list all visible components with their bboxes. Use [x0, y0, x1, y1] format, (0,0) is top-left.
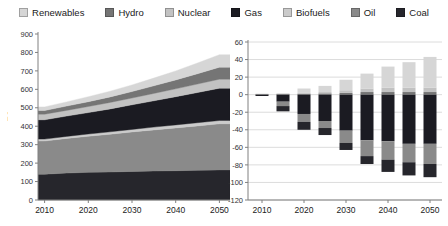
tick-label: -40	[232, 125, 243, 134]
bar-segment-coal	[298, 122, 311, 130]
legend-item-gas: Gas	[231, 7, 261, 18]
bar-segment-nuclear	[424, 88, 437, 92]
legend-item-renewables: Renewables	[19, 7, 84, 18]
gas-swatch-icon	[231, 8, 240, 17]
bar-segment-gas	[319, 95, 332, 121]
bar-segment-hydro	[382, 92, 395, 95]
bar-segment-gas	[277, 95, 290, 102]
legend-label: Biofuels	[296, 7, 330, 18]
tick-label: 2020	[295, 205, 314, 215]
tick-label: -100	[228, 178, 243, 187]
tick-label: 0	[29, 196, 33, 205]
tick-label: 40	[235, 55, 243, 64]
tick-label: 500	[20, 103, 33, 112]
biofuels-swatch-icon	[283, 8, 292, 17]
legend-label: Renewables	[32, 7, 84, 18]
legend-label: Nuclear	[178, 7, 211, 18]
tick-label: 2040	[379, 205, 398, 215]
tick-label: 600	[20, 85, 33, 94]
nuclear-swatch-icon	[165, 8, 174, 17]
bar-segment-hydro	[361, 92, 374, 95]
bar-segment-coal	[403, 162, 416, 175]
bar-segment-hydro	[340, 93, 353, 95]
bar-segment-nuclear	[361, 89, 374, 93]
bar-segment-oil	[361, 140, 374, 156]
bar-segment-coal	[424, 164, 437, 177]
tick-label: -60	[232, 143, 243, 152]
tick-label: 100	[20, 177, 33, 186]
oil-swatch-icon	[351, 8, 360, 17]
bar-segment-hydro	[424, 92, 437, 95]
bar-segment-nuclear	[382, 88, 395, 92]
tick-label: 60	[235, 38, 243, 47]
tick-label: 2040	[166, 205, 185, 215]
area-series-coal	[30, 170, 230, 200]
tick-label: 900	[20, 30, 33, 39]
bar-segment-renewables	[361, 74, 374, 89]
bar-segment-nuclear	[403, 88, 416, 92]
bar-segment-gas	[403, 95, 416, 144]
bar-segment-hydro	[319, 93, 332, 94]
bar-segment-nuclear	[298, 93, 311, 94]
renewables-swatch-icon	[19, 8, 28, 17]
tick-label: 400	[20, 122, 33, 131]
bar-segment-gas	[361, 95, 374, 141]
bar-segment-hydro	[298, 94, 311, 95]
bar-chart-change-by-fuel: 6040200-20-40-60-80-100-1202010202020302…	[228, 28, 448, 226]
bar-segment-oil	[424, 144, 437, 164]
bar-segment-oil	[319, 121, 332, 128]
bar-segment-nuclear	[340, 90, 353, 93]
legend-label: Coal	[409, 7, 429, 18]
legend-item-coal: Coal	[396, 7, 429, 18]
legend-label: Gas	[244, 7, 261, 18]
legend-item-hydro: Hydro	[105, 7, 143, 18]
tick-label: -80	[232, 161, 243, 170]
bar-segment-coal	[277, 106, 290, 111]
tick-label: 2050	[210, 205, 229, 215]
legend-label: Oil	[364, 7, 376, 18]
bar-segment-renewables	[424, 57, 437, 88]
tick-label: 0	[239, 90, 243, 99]
bar-segment-gas	[256, 95, 269, 96]
bar-segment-gas	[424, 95, 437, 144]
bar-segment-renewables	[319, 86, 332, 92]
bar-segment-gas	[340, 95, 353, 131]
bar-segment-renewables	[298, 89, 311, 93]
tick-label: 2010	[253, 205, 272, 215]
bar-segment-renewables	[277, 93, 290, 94]
legend-item-biofuels: Biofuels	[283, 7, 330, 18]
legend-label: Hydro	[118, 7, 143, 18]
tick-label: -120	[228, 196, 243, 205]
tick-label: 800	[20, 48, 33, 57]
bar-segment-oil	[340, 131, 353, 143]
tick-label: 300	[20, 140, 33, 149]
hydro-swatch-icon	[105, 8, 114, 17]
bar-segment-renewables	[382, 67, 395, 88]
legend-item-nuclear: Nuclear	[165, 7, 211, 18]
tick-label: 700	[20, 67, 33, 76]
tick-label: 2020	[79, 205, 98, 215]
bar-segment-gas	[382, 95, 395, 142]
bar-segment-nuclear	[256, 94, 269, 95]
area-chart-primary-energy: 0100200300400500600700800900201020202030…	[8, 28, 230, 226]
bar-segment-hydro	[403, 92, 416, 95]
energy-charts-figure: RenewablesHydroNuclearGasBiofuelsOilCoal…	[0, 0, 448, 226]
legend: RenewablesHydroNuclearGasBiofuelsOilCoal	[0, 7, 448, 18]
bar-segment-coal	[361, 156, 374, 164]
tick-label: 2030	[123, 205, 142, 215]
tick-label: 2030	[337, 205, 356, 215]
bar-segment-gas	[298, 95, 311, 114]
tick-label: 2010	[35, 205, 54, 215]
bar-segment-oil	[298, 114, 311, 122]
legend-item-oil: Oil	[351, 7, 376, 18]
bar-segment-oil	[277, 102, 290, 106]
tick-label: -20	[232, 108, 243, 117]
tick-label: 200	[20, 159, 33, 168]
bar-segment-coal	[319, 128, 332, 135]
bar-segment-coal	[340, 143, 353, 150]
bar-segment-oil	[403, 144, 416, 162]
bar-segment-nuclear	[319, 92, 332, 93]
tick-label: 20	[235, 73, 243, 82]
bar-segment-renewables	[403, 62, 416, 87]
bar-segment-coal	[382, 160, 395, 172]
